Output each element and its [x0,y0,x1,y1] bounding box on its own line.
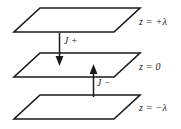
arrow-label-j-plus: J + [64,37,78,47]
plane-label-middle: z = 0 [139,62,161,72]
plane-label-top: z = +λ [139,17,167,27]
arrow-j-plus-head [56,56,64,66]
arrow-j-minus-head [90,64,98,74]
physics-diagram-canvas: z = +λ z = 0 z = −λ J + J − [0,0,181,129]
arrow-label-j-minus: J − [97,79,111,89]
plane-label-bottom: z = −λ [139,103,167,113]
plane-bottom-parallelogram [14,95,140,119]
plane-top-parallelogram [14,8,140,32]
plane-middle-parallelogram [14,53,140,77]
